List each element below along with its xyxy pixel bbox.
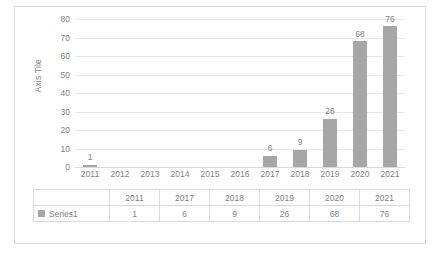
bar-2020 <box>353 41 367 167</box>
bar-2018 <box>293 150 307 167</box>
data-table: 2011 2017 2018 2019 2020 2021 Series1 1 … <box>33 189 410 222</box>
x-tick-2013: 2013 <box>135 170 165 179</box>
bar-label-2011: 1 <box>75 153 105 162</box>
x-tick-2016: 2016 <box>225 170 255 179</box>
legend-series1: Series1 <box>34 206 110 222</box>
table-header-2017: 2017 <box>160 190 210 206</box>
bar-label-2017: 6 <box>255 144 285 153</box>
table-header-2021: 2021 <box>360 190 410 206</box>
bar-2021 <box>383 26 397 167</box>
y-tick-label: 40 <box>61 89 70 98</box>
bar-label-2020: 68 <box>345 30 375 39</box>
y-tick-label: 30 <box>61 107 70 116</box>
y-tick-label: 70 <box>61 33 70 42</box>
table-row-header: 2011 2017 2018 2019 2020 2021 <box>34 190 410 206</box>
x-tick-2015: 2015 <box>195 170 225 179</box>
x-tick-2017: 2017 <box>255 170 285 179</box>
table-value-2019: 26 <box>260 206 310 222</box>
table-value-2020: 68 <box>310 206 360 222</box>
bar-2017 <box>263 156 277 167</box>
table-value-2011: 1 <box>110 206 160 222</box>
y-tick-label: 60 <box>61 52 70 61</box>
y-tick-label: 80 <box>61 15 70 24</box>
x-tick-2020: 2020 <box>345 170 375 179</box>
y-axis-title: Axis Tile <box>33 59 43 92</box>
table-header-2011: 2011 <box>110 190 160 206</box>
table-corner-cell <box>34 190 110 206</box>
x-tick-2012: 2012 <box>105 170 135 179</box>
x-tick-2011: 2011 <box>75 170 105 179</box>
table-value-2017: 6 <box>160 206 210 222</box>
x-axis-line <box>75 167 405 168</box>
plot-area: 80 70 60 50 40 30 20 10 0 1 6 9 26 68 76 <box>75 19 405 167</box>
legend-swatch-icon <box>38 210 45 217</box>
y-tick-label: 20 <box>61 126 70 135</box>
table-value-2021: 76 <box>360 206 410 222</box>
gridline: 80 <box>75 19 405 20</box>
bar-2019 <box>323 119 337 167</box>
table-row: Series1 1 6 9 26 68 76 <box>34 206 410 222</box>
chart-container: Axis Tile 80 70 60 50 40 30 20 10 0 1 6 … <box>14 6 426 244</box>
bar-label-2021: 76 <box>375 15 405 24</box>
x-tick-2018: 2018 <box>285 170 315 179</box>
y-tick-label: 0 <box>65 163 70 172</box>
bar-label-2018: 9 <box>285 138 315 147</box>
table-header-2018: 2018 <box>210 190 260 206</box>
bar-label-2019: 26 <box>315 107 345 116</box>
table-header-2020: 2020 <box>310 190 360 206</box>
y-tick-label: 10 <box>61 144 70 153</box>
legend-label: Series1 <box>49 209 78 219</box>
x-tick-2021: 2021 <box>375 170 405 179</box>
y-tick-label: 50 <box>61 70 70 79</box>
x-tick-2014: 2014 <box>165 170 195 179</box>
table-value-2018: 9 <box>210 206 260 222</box>
table-header-2019: 2019 <box>260 190 310 206</box>
x-tick-2019: 2019 <box>315 170 345 179</box>
